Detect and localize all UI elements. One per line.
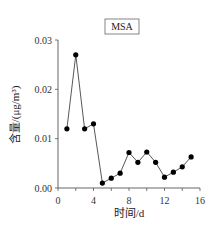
y-axis-label: 含量/(μg/m³): [8, 85, 22, 144]
data-point-marker: [189, 154, 194, 159]
data-point-marker: [100, 180, 105, 185]
data-point-marker: [144, 149, 149, 154]
y-axis-ticks: 0.000.010.020.03: [35, 35, 59, 194]
legend-label: MSA: [111, 21, 133, 32]
data-point-marker: [135, 160, 140, 165]
series-line: [67, 55, 191, 183]
legend: MSA: [105, 19, 139, 34]
y-tick-label: 0.02: [35, 84, 53, 95]
data-point-marker: [91, 121, 96, 126]
data-point-marker: [162, 175, 167, 180]
data-point-marker: [82, 126, 87, 131]
data-point-marker: [118, 171, 123, 176]
y-tick-label: 0.03: [35, 35, 53, 46]
x-tick-label: 12: [160, 195, 170, 206]
data-point-marker: [64, 126, 69, 131]
data-point-marker: [180, 164, 185, 169]
data-point-marker: [153, 160, 158, 165]
line-chart: MSA 0.000.010.020.03 0481216 含量/(μg/m³) …: [0, 0, 216, 231]
data-point-marker: [171, 170, 176, 175]
y-tick-label: 0.00: [35, 183, 53, 194]
x-tick-label: 0: [56, 195, 61, 206]
x-axis-ticks: 0481216: [56, 188, 206, 206]
x-axis-label: 时间/d: [114, 207, 145, 219]
data-point-marker: [126, 150, 131, 155]
x-tick-label: 8: [127, 195, 132, 206]
x-tick-label: 4: [91, 195, 96, 206]
axes: [58, 40, 200, 188]
data-point-marker: [73, 52, 78, 57]
x-tick-label: 16: [195, 195, 205, 206]
data-point-marker: [109, 176, 114, 181]
y-tick-label: 0.01: [35, 133, 53, 144]
data-series-msa: [64, 52, 193, 185]
